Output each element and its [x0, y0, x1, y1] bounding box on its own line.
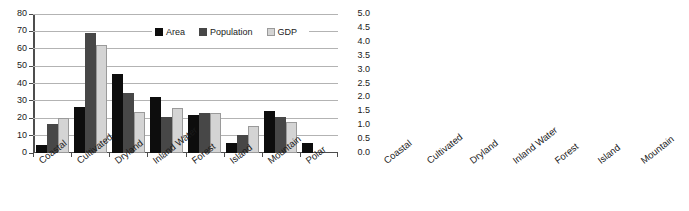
- y-tick-label: 50: [17, 61, 27, 70]
- x-tick-mark: [224, 153, 225, 157]
- x-axis-label: Dryland: [468, 138, 500, 166]
- bar: [150, 97, 161, 153]
- y-tick-label: 20: [17, 113, 27, 122]
- y-tick-label: 2.5: [357, 79, 370, 88]
- x-tick-mark: [337, 153, 338, 157]
- left-chart-legend: Area Population GDP: [152, 26, 309, 38]
- bar-group: [71, 14, 109, 153]
- y-tick-label: 4.0: [357, 37, 370, 46]
- x-axis-label: Mountain: [639, 134, 676, 166]
- y-tick-label: 30: [17, 96, 27, 105]
- y-tick-label: 0.5: [357, 134, 370, 143]
- y-tick-label: 4.5: [357, 23, 370, 32]
- y-tick-label: 2.0: [357, 92, 370, 101]
- legend-label-gdp: GDP: [278, 27, 298, 37]
- right-chart-panel: Population GDP 0.00.51.01.52.02.53.03.54…: [345, 0, 689, 211]
- y-tick-label: 3.5: [357, 51, 370, 60]
- legend-swatch-gdp-icon: [267, 28, 275, 36]
- x-tick-mark: [147, 153, 148, 157]
- y-tick-label: 1.0: [357, 120, 370, 129]
- legend-swatch-area-icon: [155, 28, 163, 36]
- y-tick-label: 80: [17, 9, 27, 18]
- x-tick-mark: [109, 153, 110, 157]
- legend-item-population: Population: [199, 27, 253, 37]
- x-tick-mark: [33, 153, 34, 157]
- bar: [85, 33, 96, 153]
- x-tick-mark: [71, 153, 72, 157]
- legend-item-gdp: GDP: [267, 27, 298, 37]
- y-tick-label: 40: [17, 79, 27, 88]
- y-tick-label: 5.0: [357, 9, 370, 18]
- legend-swatch-population-icon: [199, 28, 207, 36]
- legend-label-population: Population: [210, 27, 253, 37]
- x-tick-mark: [262, 153, 263, 157]
- legend-item-area: Area: [155, 27, 185, 37]
- x-tick-mark: [300, 153, 301, 157]
- y-tick-label: 60: [17, 44, 27, 53]
- x-tick-mark: [186, 153, 187, 157]
- y-tick-label: 10: [17, 131, 27, 140]
- bar: [74, 107, 85, 153]
- dual-bar-chart-figure: Area Population GDP 01020304050607080Coa…: [0, 0, 689, 211]
- x-axis-label: Forest: [553, 141, 580, 165]
- legend-label-area: Area: [166, 27, 185, 37]
- bar: [264, 111, 275, 153]
- x-axis-label: Cultivated: [425, 132, 464, 166]
- y-tick-label: 1.5: [357, 106, 370, 115]
- x-axis-label: Inland Water: [511, 125, 559, 166]
- x-axis-label: Coastal: [382, 138, 414, 166]
- bar: [112, 74, 123, 153]
- y-tick-label: 3.0: [357, 65, 370, 74]
- y-tick-label: 0: [22, 148, 27, 157]
- y-tick-label: 70: [17, 26, 27, 35]
- bar-group: [33, 14, 71, 153]
- bar-group: [109, 14, 147, 153]
- left-chart-panel: Area Population GDP 01020304050607080Coa…: [0, 0, 345, 211]
- x-axis-label: Island: [596, 142, 622, 165]
- y-tick-label: 0.0: [357, 148, 370, 157]
